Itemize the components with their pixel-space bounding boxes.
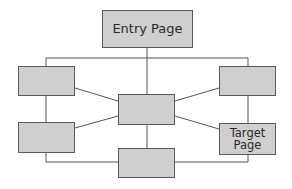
edge-lefttop-center: [75, 88, 118, 101]
right-top-node: [219, 66, 276, 96]
edge-target-bottom: [175, 155, 248, 162]
entry-page-label: Entry Page: [112, 22, 182, 36]
entry-page-node: Entry Page: [102, 10, 193, 48]
left-top-node: [18, 66, 75, 96]
target-page-label: Target Page: [230, 127, 266, 151]
target-page-node: Target Page: [219, 123, 276, 155]
edge-righttop-center: [175, 88, 219, 101]
left-bottom-node: [18, 122, 75, 153]
edge-target-center: [175, 116, 219, 129]
edge-leftbottom-center: [75, 116, 118, 128]
center-node: [118, 94, 175, 125]
edge-leftbottom-bottom: [46, 153, 118, 162]
bottom-center-node: [118, 148, 175, 178]
